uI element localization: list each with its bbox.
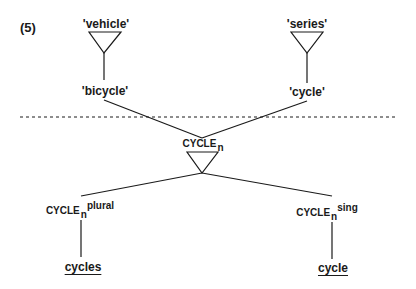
node-root: CYCLEn [182, 139, 223, 153]
gloss-bicycle: 'bicycle' [82, 85, 128, 97]
node-root-name: CYCLE [182, 138, 216, 149]
gloss-series: 'series' [287, 18, 327, 30]
node-plural-name: CYCLE [46, 205, 80, 216]
node-root-subscript: n [217, 142, 223, 153]
link-root-plural [81, 173, 202, 196]
node-sing: CYCLEnsing [296, 203, 358, 222]
surface-form-cycle: cycle [318, 262, 348, 274]
surface-form-cycles: cycles [65, 261, 102, 273]
triangle-root [187, 152, 218, 173]
node-plural-superscript: plural [87, 200, 114, 211]
example-number: (5) [20, 21, 36, 34]
gloss-cycle: 'cycle' [289, 86, 325, 98]
node-sing-name: CYCLE [296, 207, 330, 218]
link-root-sing [202, 173, 332, 196]
link-bicycle-root [104, 100, 202, 138]
lexical-semantic-diagram: (5) 'vehicle' 'bicycle' 'series' 'cycle'… [0, 0, 416, 289]
triangle-series [291, 32, 323, 53]
gloss-vehicle: 'vehicle' [83, 18, 129, 30]
link-cycle-root [202, 101, 307, 138]
triangle-vehicle [89, 32, 121, 53]
node-sing-superscript: sing [337, 202, 358, 213]
node-plural: CYCLEnplural [46, 201, 114, 220]
